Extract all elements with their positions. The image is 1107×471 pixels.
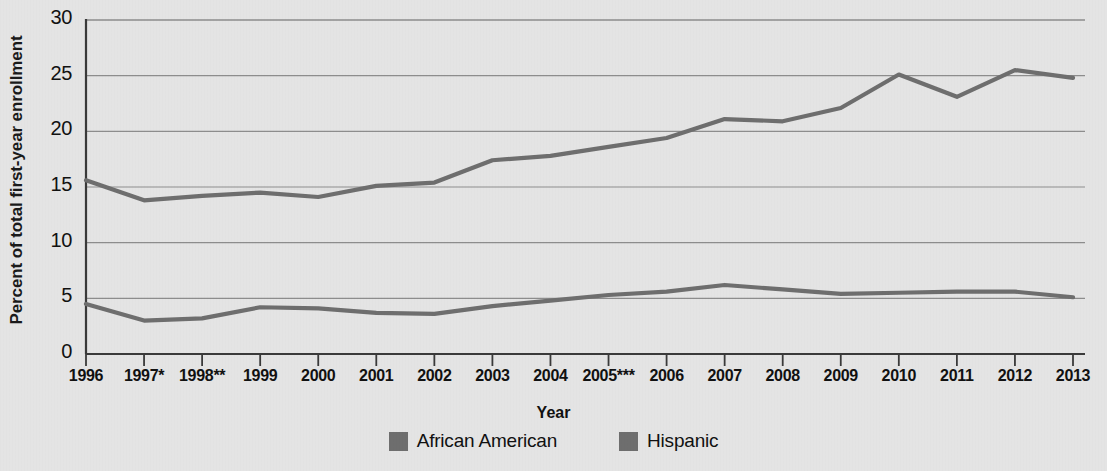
- chart-legend: African American Hispanic: [0, 430, 1107, 452]
- x-axis-title-container: Year: [0, 404, 1107, 422]
- legend-item-african-american[interactable]: African American: [389, 430, 557, 452]
- plot-area: [0, 0, 1107, 471]
- y-tick-label: 0: [26, 340, 72, 363]
- series-line-0: [86, 70, 1073, 200]
- legend-swatch-hispanic: [619, 432, 638, 451]
- y-tick-label: 15: [26, 173, 72, 196]
- legend-label-hispanic: Hispanic: [647, 430, 718, 452]
- y-tick-label: 25: [26, 62, 72, 85]
- y-tick-label: 30: [26, 6, 72, 29]
- legend-swatch-african-american: [389, 432, 408, 451]
- legend-item-hispanic[interactable]: Hispanic: [619, 430, 718, 452]
- legend-label-african-american: African American: [417, 430, 557, 452]
- line-chart: Percent of total first-year enrollment 0…: [0, 0, 1107, 471]
- y-tick-label: 10: [26, 229, 72, 252]
- y-tick-label: 5: [26, 284, 72, 307]
- series-line-1: [86, 285, 1073, 321]
- x-tick-label: 2013: [1028, 367, 1107, 385]
- x-axis-title: Year: [537, 404, 571, 421]
- y-axis-title: Percent of total first-year enrollment: [7, 35, 27, 324]
- y-tick-label: 20: [26, 117, 72, 140]
